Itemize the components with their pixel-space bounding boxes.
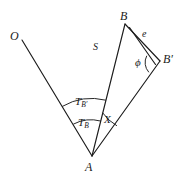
ray-A-B-prime [92, 61, 160, 156]
angle-label-t-b-prime-subscript: B′ [81, 100, 87, 109]
angle-label-t-b-subscript: B [84, 121, 89, 130]
arc-phi [145, 56, 149, 72]
angle-label-x: X [104, 114, 111, 125]
geometry-figure: O B B′ A S e TB′ TB X ϕ [0, 0, 185, 181]
vertex-label-a: A [85, 161, 92, 173]
angle-label-phi: ϕ [135, 57, 141, 68]
side-label-e: e [142, 29, 146, 39]
vertex-label-o: O [10, 30, 19, 42]
vertex-label-b: B [120, 10, 127, 22]
vertex-label-b-prime: B′ [163, 53, 173, 65]
prime-mark-icon: ′ [170, 52, 173, 66]
angle-label-t-b: TB [78, 117, 89, 129]
diagram-canvas [0, 0, 185, 181]
angle-label-t-b-prime: TB′ [75, 96, 87, 108]
side-label-s: S [93, 42, 98, 52]
